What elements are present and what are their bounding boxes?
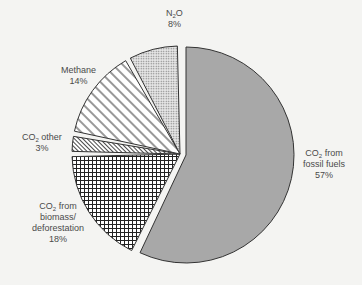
pie-chart: N2O 8% Methane 14% CO2 other 3% CO2 from…: [0, 0, 362, 285]
label-co2-fossil: CO2 from fossil fuels 57%: [303, 148, 345, 181]
label-co2-biomass: CO2 from biomass/ deforestation 18%: [32, 201, 84, 245]
label-co2-other: CO2 other 3%: [22, 132, 62, 154]
label-n2o: N2O 8%: [166, 8, 183, 30]
label-methane: Methane 14%: [61, 65, 96, 87]
